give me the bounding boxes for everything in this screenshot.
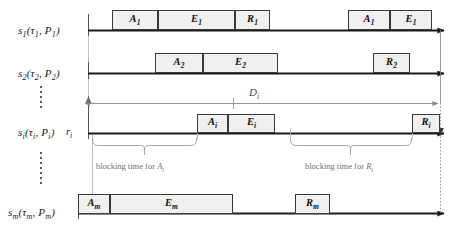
block-label: Ei xyxy=(247,116,256,130)
block-s2-e2: E2 xyxy=(203,53,278,73)
block-sm-am: Am xyxy=(78,194,110,214)
block-label: Em xyxy=(165,197,178,211)
left-guide-line xyxy=(89,36,93,200)
annotation-symbol: Ai xyxy=(157,161,164,171)
block-label: E1 xyxy=(191,13,202,27)
row-label-s2: s2(τ2, P2) xyxy=(18,67,60,82)
release-time-label: ri xyxy=(66,126,72,140)
block-s1-e1: E1 xyxy=(158,10,235,30)
block-sm-em: Em xyxy=(110,194,233,214)
annotation-text: blocking time for xyxy=(96,161,157,171)
block-sm-rm: Rm xyxy=(295,194,330,214)
block-s1-r1: R1 xyxy=(235,10,270,30)
block-si-ai: Ai xyxy=(197,114,228,133)
annotation-symbol: Ri xyxy=(366,161,373,171)
block-si-ei: Ei xyxy=(228,114,275,133)
row-label-sm: sm(τm, Pm) xyxy=(8,206,55,221)
annotation-blocking-time-ri: blocking time for Ri xyxy=(305,161,373,173)
block-label: E2 xyxy=(235,56,246,70)
row-label-sm-text: sm(τm, Pm) xyxy=(8,206,55,218)
ellipsis-dots-upper xyxy=(40,86,42,111)
block-label: R1 xyxy=(247,13,258,27)
ellipsis-dots-lower xyxy=(40,152,42,187)
brace-blocking-ri xyxy=(291,138,412,155)
origin-ticks xyxy=(79,14,89,219)
row-label-si-text: si(τi, Pi) xyxy=(18,126,55,138)
block-label: E1 xyxy=(406,13,417,27)
deadline-label: Di xyxy=(249,86,259,101)
row-label-s2-text: s2(τ2, P2) xyxy=(18,67,60,79)
block-s2-r2: R2 xyxy=(373,53,410,73)
block-s1-a1: A1 xyxy=(112,10,158,30)
block-label: A1 xyxy=(130,13,141,27)
timing-diagram: s1(τ1, P1) s2(τ2, P2) si(τi, Pi) sm(τm, … xyxy=(0,0,468,230)
row-label-s1: s1(τ1, P1) xyxy=(18,24,60,39)
row-label-s1-text: s1(τ1, P1) xyxy=(18,24,60,36)
block-label: R2 xyxy=(386,56,397,70)
deadline-arrow xyxy=(86,96,439,109)
block-label: A2 xyxy=(174,56,185,70)
block-s1-e1-second: E1 xyxy=(390,10,432,30)
block-label: Rm xyxy=(306,197,319,211)
block-s1-a1-second: A1 xyxy=(348,10,390,30)
block-label: Ai xyxy=(208,116,217,130)
block-si-ri: Ri xyxy=(412,114,440,133)
row-label-si: si(τi, Pi) xyxy=(18,126,55,141)
block-s2-a2: A2 xyxy=(155,53,203,73)
brace-blocking-ai xyxy=(93,138,197,155)
block-label: Ri xyxy=(421,116,430,130)
block-label: Am xyxy=(88,197,101,211)
annotation-blocking-time-ai: blocking time for Ai xyxy=(96,161,164,173)
block-label: A1 xyxy=(364,13,375,27)
annotation-text: blocking time for xyxy=(305,161,366,171)
